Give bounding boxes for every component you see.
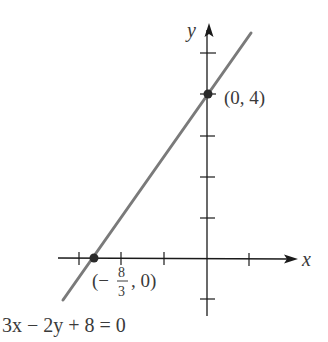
x-axis-label: x	[301, 248, 311, 270]
y-axis-arrow-icon	[205, 23, 214, 37]
fraction-denominator: 3	[118, 284, 125, 299]
x-intercept-prefix: (−	[92, 270, 109, 292]
graph-canvas: y x (0, 4) (− 8 3 , 0) 3x − 2y + 8 = 0	[0, 0, 328, 342]
equation-label: 3x − 2y + 8 = 0	[2, 314, 126, 337]
y-axis	[200, 23, 216, 316]
point-label-y-intercept: (0, 4)	[224, 87, 265, 109]
x-intercept-suffix: , 0)	[131, 270, 156, 292]
point-y-intercept	[204, 90, 213, 99]
point-x-intercept	[90, 254, 99, 263]
point-label-x-intercept: (− 8 3 , 0)	[92, 265, 156, 299]
fraction-numerator: 8	[118, 265, 125, 280]
y-axis-label: y	[185, 19, 196, 42]
